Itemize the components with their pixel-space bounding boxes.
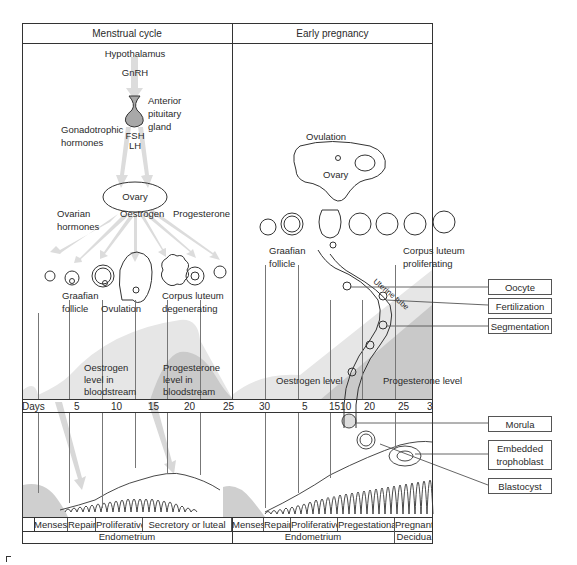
lh-label: LH (125, 140, 145, 151)
gridline (200, 413, 201, 475)
phase-pregestational: Pregestational (338, 518, 395, 531)
header-divider (22, 43, 433, 44)
graafian-follicle-label: Graafian follicle (62, 290, 98, 314)
ovary-label: Ovary (115, 191, 155, 202)
day-tick: 5 (74, 401, 80, 412)
menstrual-cycle-title: Menstrual cycle (22, 28, 232, 39)
oestrogen-level-label: Oestrogen level in bloodstream (84, 362, 136, 397)
days-label: Days (22, 401, 45, 412)
phase-menses-2: Menses (232, 518, 264, 531)
phase-menses: Menses (34, 518, 68, 531)
pregnancy-graafian-label: Graafian follicle (269, 245, 305, 269)
day-tick: 1510 (329, 401, 351, 412)
gridline (38, 313, 39, 399)
pregnancy-ovary-label: Ovary (323, 169, 348, 180)
pregnancy-oestrogen-level-label: Oestrogen level (276, 375, 343, 386)
corpus-luteum-degenerating-label: Corpus luteum degenerating (162, 290, 224, 314)
gridline (330, 413, 331, 478)
ovulation-label: Ovulation (101, 303, 141, 314)
gridline (167, 413, 168, 473)
callout-morula: Morula (488, 416, 552, 432)
callout-oocyte: Oocyte (488, 279, 552, 295)
oestrogen-label: Oestrogen (120, 208, 164, 219)
phase-repair-2: Repair (264, 518, 291, 531)
callout-embedded-trophoblast: Embedded trophoblast (488, 440, 552, 470)
pregnancy-progesterone-level-label: Progesterone level (383, 375, 462, 386)
corpus-luteum-proliferating-label: Corpus luteum proliferating (403, 245, 465, 269)
tissue-endometrium-2: Endometrium (232, 531, 395, 543)
phase-secretory: Secretory or luteal (143, 518, 232, 531)
phase-proliferative: Proliferative (96, 518, 143, 531)
phase-pregnant: Pregnant (395, 518, 433, 531)
gridline (265, 265, 266, 399)
early-pregnancy-title: Early pregnancy (232, 28, 433, 39)
days-axis-bottom (22, 412, 433, 413)
day-tick: 25 (398, 401, 409, 412)
phase-proliferative-2: Proliferative (291, 518, 338, 531)
tissue-endometrium: Endometrium (22, 531, 232, 543)
ovarian-hormones-label: Ovarian hormones (57, 208, 99, 232)
gridline (395, 413, 396, 448)
tissue-decidua: Decidua (395, 531, 433, 543)
gridline (362, 300, 363, 399)
gridline (69, 300, 70, 399)
day-tick: 5 (302, 401, 308, 412)
progesterone-label: Progesterone (173, 208, 230, 219)
corner-mark (6, 556, 11, 562)
gnrh-label: GnRH (115, 67, 155, 78)
hypothalamus-label: Hypothalamus (95, 48, 175, 59)
phase-repair: Repair (68, 518, 96, 531)
progesterone-level-label: Progesterone level in bloodstream (163, 362, 220, 397)
gridline (38, 413, 39, 493)
gridline (298, 413, 299, 493)
gridline (265, 413, 266, 508)
callout-segmentation: Segmentation (488, 318, 552, 334)
gridline (69, 413, 70, 503)
gridline (135, 413, 136, 468)
day-tick: 20 (184, 401, 195, 412)
days-axis-top (22, 399, 433, 400)
day-tick: 10 (111, 401, 122, 412)
gridline (102, 413, 103, 508)
callout-blastocyst: Blastocyst (488, 478, 552, 494)
day-tick: 3 (427, 401, 433, 412)
day-tick: 15 (148, 401, 159, 412)
pregnancy-ovulation-label: Ovulation (306, 131, 346, 142)
callout-fertilization: Fertilization (488, 298, 552, 314)
anterior-pituitary-label: Anterior pituitary gland (148, 95, 181, 132)
phase-row-left (34, 517, 35, 531)
day-tick: 30 (259, 401, 270, 412)
gonadotrophic-hormones-label: Gonadotrophic hormones (61, 124, 123, 148)
section-divider (232, 23, 233, 400)
day-tick: 25 (223, 401, 234, 412)
day-tick: 20 (364, 401, 375, 412)
